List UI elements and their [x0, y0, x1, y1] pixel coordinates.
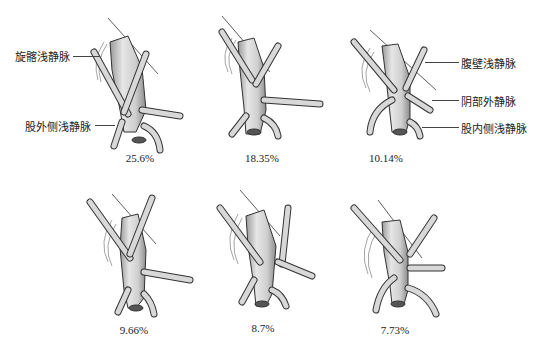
- label-lateral-superficial-femoral-vein: 股外侧浅静脉: [25, 118, 91, 134]
- vein-diagram-1: [80, 10, 190, 140]
- percentage-label-4: 9.66%: [104, 324, 164, 336]
- leader-line: [73, 56, 100, 57]
- label-superficial-circumflex-iliac-vein: 旋髂浅静脉: [15, 48, 70, 64]
- leader-line: [95, 125, 115, 126]
- percentage-label-6: 7.73%: [365, 324, 425, 336]
- percentage-label-5: 8.7%: [233, 322, 293, 334]
- vein-diagram-2: [210, 12, 330, 142]
- variation-panel-2: [210, 12, 330, 142]
- leader-line: [425, 62, 459, 63]
- percentage-label-1: 25.6%: [110, 152, 170, 164]
- vein-diagram-4: [86, 194, 196, 316]
- variation-panel-6: [350, 200, 450, 312]
- percentage-label-3: 10.14%: [356, 152, 416, 164]
- variation-panel-5: [214, 190, 324, 312]
- vein-diagram-5: [214, 190, 324, 312]
- label-medial-superficial-femoral-vein: 股内侧浅静脉: [461, 120, 527, 136]
- variation-panel-4: [86, 194, 196, 316]
- label-superficial-epigastric-vein: 腹壁浅静脉: [461, 55, 516, 71]
- percentage-label-2: 18.35%: [232, 152, 292, 164]
- label-external-pudendal-vein: 阴部外静脉: [461, 93, 516, 109]
- leader-line: [432, 100, 459, 101]
- vein-diagram-6: [350, 200, 450, 312]
- vein-diagram-3: [348, 28, 448, 140]
- variation-panel-3: [348, 28, 448, 140]
- leader-line: [422, 127, 459, 128]
- variation-panel-1: [80, 10, 190, 140]
